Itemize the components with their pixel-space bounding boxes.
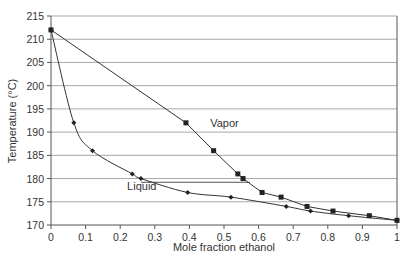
- vapor-point: [211, 148, 216, 153]
- y-tick-label: 215: [26, 10, 44, 22]
- vapor-point: [183, 120, 188, 125]
- liquid-point: [130, 171, 135, 176]
- x-tick-label: 1: [394, 231, 400, 243]
- x-tick-label: 0.8: [320, 231, 335, 243]
- x-axis-label: Mole fraction ethanol: [173, 241, 275, 253]
- vapor-point: [235, 171, 240, 176]
- y-tick-label: 205: [26, 56, 44, 68]
- vapor-point: [279, 195, 284, 200]
- y-axis-label: Temperature (°C): [6, 79, 18, 163]
- liquid-point: [346, 213, 351, 218]
- liquid-point: [185, 190, 190, 195]
- x-tick-label: 0.2: [113, 231, 128, 243]
- y-tick-label: 180: [26, 173, 44, 185]
- y-tick-label: 195: [26, 103, 44, 115]
- liquid-point: [284, 204, 289, 209]
- phase-diagram-chart: 17017518018519019520020521021500.10.20.3…: [0, 0, 409, 266]
- vapor-point: [305, 204, 310, 209]
- liquid-annotation: Liquid: [127, 180, 156, 192]
- x-tick-label: 0.7: [286, 231, 301, 243]
- x-tick-label: 0.3: [147, 231, 162, 243]
- liquid-point: [71, 120, 76, 125]
- x-tick-label: 0.1: [78, 231, 93, 243]
- liquid-point: [228, 195, 233, 200]
- vapor-point: [241, 176, 246, 181]
- gridlines: [51, 16, 397, 202]
- vapor-point: [330, 209, 335, 214]
- y-tick-label: 170: [26, 219, 44, 231]
- x-tick-label: 0.9: [355, 231, 370, 243]
- liquid-point: [308, 209, 313, 214]
- labels: 17017518018519019520020521021500.10.20.3…: [26, 10, 400, 243]
- vapor-point: [260, 190, 265, 195]
- y-tick-label: 175: [26, 196, 44, 208]
- x-tick-label: 0: [48, 231, 54, 243]
- vapor-annotation: Vapor: [210, 117, 239, 129]
- y-tick-label: 190: [26, 126, 44, 138]
- y-tick-label: 210: [26, 33, 44, 45]
- y-tick-label: 185: [26, 149, 44, 161]
- y-tick-label: 200: [26, 80, 44, 92]
